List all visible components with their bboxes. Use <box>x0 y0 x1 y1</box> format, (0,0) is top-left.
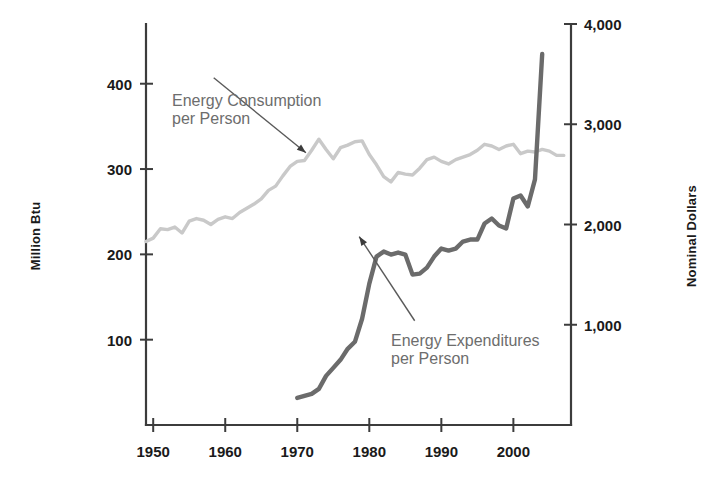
y-tick-label-right: 3,000 <box>584 116 622 133</box>
axis-ticks <box>140 24 577 432</box>
x-tick-label: 1960 <box>209 443 242 460</box>
y-tick-label-left: 300 <box>107 161 132 178</box>
annotation-leader-line <box>359 237 414 321</box>
y-tick-label-left: 400 <box>107 75 132 92</box>
y-tick-label-left: 100 <box>107 331 132 348</box>
annotation-arrowhead <box>359 237 367 246</box>
chart-figure: Million Btu Nominal Dollars 100200300400… <box>0 0 718 482</box>
series-label-energy-expenditures: Energy Expenditures per Person <box>391 332 540 368</box>
y-axis-left-title: Million Btu <box>28 202 43 271</box>
x-tick-label: 1990 <box>425 443 458 460</box>
x-tick-label: 1950 <box>137 443 170 460</box>
y-tick-label-right: 2,000 <box>584 216 622 233</box>
x-tick-label: 2000 <box>497 443 530 460</box>
series-label-energy-consumption: Energy Consumption per Person <box>172 92 321 128</box>
y-tick-label-left: 200 <box>107 246 132 263</box>
chart-plot-area <box>0 0 718 482</box>
x-tick-label: 1970 <box>281 443 314 460</box>
y-axis-right-title: Nominal Dollars <box>684 185 699 287</box>
x-tick-label: 1980 <box>353 443 386 460</box>
y-tick-label-right: 1,000 <box>584 316 622 333</box>
y-tick-label-right: 4,000 <box>584 16 622 33</box>
